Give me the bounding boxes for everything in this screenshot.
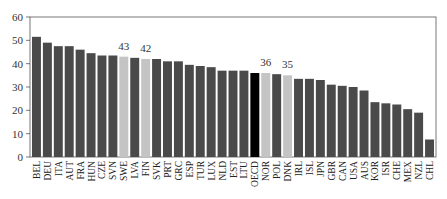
bar-mex (403, 109, 412, 157)
x-tick-label: SWE (119, 161, 129, 181)
y-tick-label: 20 (12, 104, 24, 116)
x-tick-label: LVA (130, 161, 140, 179)
x-tick-label: AUS (360, 161, 370, 180)
bar-irl (294, 79, 303, 157)
bar-usa (349, 87, 358, 157)
bar-nld (218, 71, 227, 157)
x-axis-labels: BELDEUITAAUTFRAHUNCZESVNSWELVAFINSVKPRTG… (32, 160, 435, 187)
bar-ita (54, 46, 63, 157)
bar-est (229, 71, 238, 157)
bar-cze (97, 56, 106, 158)
x-tick-label: POL (272, 161, 282, 179)
x-tick-label: HUN (87, 161, 97, 182)
bar-chart: 0102030405060 43423635 BELDEUITAAUTFRAHU… (0, 0, 447, 199)
y-axis: 0102030405060 (12, 11, 30, 163)
y-tick-label: 60 (12, 11, 24, 23)
bar-chl (425, 140, 434, 158)
bar-oecd (250, 73, 259, 157)
bar-fra (76, 50, 85, 157)
x-tick-label: FRA (76, 161, 86, 180)
x-tick-label: TUR (196, 160, 206, 180)
x-tick-label: LUX (207, 161, 217, 181)
x-tick-label: AUT (65, 161, 75, 181)
bar-bel (32, 37, 41, 157)
x-tick-label: SVN (108, 161, 118, 180)
value-label-fin: 42 (140, 42, 151, 54)
y-tick-label: 40 (12, 58, 24, 70)
x-tick-label: NLD (218, 161, 228, 181)
x-tick-label: ISL (305, 161, 315, 175)
x-tick-label: ESP (185, 161, 195, 177)
bar-dnk (283, 75, 292, 157)
bar-lva (130, 58, 139, 157)
x-tick-label: SVK (152, 161, 162, 180)
y-tick-label: 50 (12, 34, 24, 46)
x-tick-label: FIN (141, 161, 151, 176)
x-tick-label: BEL (32, 161, 42, 179)
bars (32, 37, 434, 157)
x-tick-label: JPN (316, 161, 326, 177)
x-tick-label: LTU (239, 161, 249, 179)
bar-svk (152, 59, 161, 157)
x-tick-label: ITA (54, 161, 64, 176)
x-tick-label: IRL (294, 161, 304, 177)
x-tick-label: DEU (43, 161, 53, 181)
bar-svn (108, 56, 117, 158)
bar-esp (185, 65, 194, 157)
bar-nor (261, 73, 270, 157)
bar-aus (360, 91, 369, 158)
y-tick-label: 30 (12, 81, 24, 93)
x-tick-label: CHE (392, 161, 402, 180)
x-tick-label: ISR (381, 160, 391, 175)
bar-tur (196, 66, 205, 157)
bar-hun (87, 53, 96, 157)
bar-jpn (316, 80, 325, 157)
bar-che (392, 105, 401, 158)
bar-gbr (327, 85, 336, 157)
x-tick-label: OECD (250, 161, 260, 187)
bar-fin (141, 59, 150, 157)
bar-aut (65, 46, 74, 157)
bar-isr (381, 103, 390, 157)
bar-kor (370, 102, 379, 157)
value-label-dnk: 35 (282, 58, 294, 70)
bar-nzl (414, 113, 423, 157)
y-tick-label: 0 (18, 151, 24, 163)
x-tick-label: DNK (283, 161, 293, 182)
x-tick-label: GRC (174, 161, 184, 181)
x-tick-label: KOR (370, 160, 380, 181)
bar-pol (272, 74, 281, 157)
x-tick-label: PRT (163, 161, 173, 178)
x-tick-label: MEX (403, 161, 413, 182)
x-tick-label: NOR (261, 160, 271, 181)
value-label-swe: 43 (118, 40, 130, 52)
x-tick-label: CAN (338, 161, 348, 181)
x-tick-label: GBR (327, 160, 337, 180)
bar-deu (43, 43, 52, 157)
y-tick-label: 10 (12, 128, 24, 140)
x-tick-label: CZE (97, 161, 107, 179)
x-tick-label: EST (229, 161, 239, 178)
bar-lux (207, 67, 216, 157)
bar-isl (305, 79, 314, 157)
x-tick-label: CHL (425, 161, 435, 180)
value-label-nor: 36 (260, 56, 272, 68)
x-tick-label: USA (349, 161, 359, 180)
bar-ltu (239, 71, 248, 157)
bar-can (338, 86, 347, 157)
bar-grc (174, 61, 183, 157)
x-tick-label: NZL (414, 161, 424, 180)
bar-swe (119, 57, 128, 157)
bar-prt (163, 61, 172, 157)
